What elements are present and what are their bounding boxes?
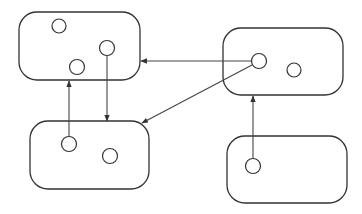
node-br-a [246, 159, 261, 174]
node-tl-b [100, 41, 115, 56]
diagram-canvas [0, 0, 362, 214]
container-bottom-left [30, 121, 149, 189]
nodes-group [52, 19, 301, 174]
node-tl-a [52, 19, 66, 33]
containers-group [19, 12, 347, 203]
node-bl-b [103, 149, 118, 164]
container-bottom-right [227, 136, 347, 203]
node-tr-b [287, 63, 301, 77]
edges-group [69, 56, 253, 158]
node-tl-c [70, 60, 85, 75]
node-tr-a [252, 54, 267, 69]
node-bl-a [62, 137, 77, 152]
